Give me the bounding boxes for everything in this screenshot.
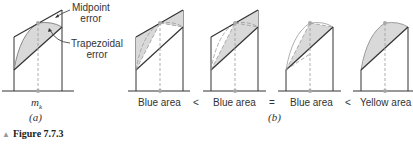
panel-b4-label: Yellow area [360, 97, 411, 108]
panel-b3 [278, 21, 341, 93]
trapezoidal-error-line1: Trapezoidal [71, 38, 123, 49]
triangle-icon: ▲ [2, 130, 10, 139]
figure-caption: ▲Figure 7.7.3 [2, 128, 64, 139]
panel-b2 [203, 10, 266, 93]
panel-b-caption: (b) [268, 111, 281, 123]
mk-subscript: k [39, 103, 42, 111]
trapezoidal-error-line2: error [71, 49, 123, 60]
comparator-1: < [193, 97, 199, 108]
midpoint-error-label: Midpoint error [72, 2, 110, 24]
panel-b1-label: Blue area [138, 97, 181, 108]
figure-diagram [0, 0, 413, 145]
midpoint-error-line2: error [72, 13, 110, 24]
midpoint-error-line1: Midpoint [72, 2, 110, 13]
mk-base: m [31, 96, 39, 108]
panel-b1 [128, 10, 190, 93]
trapezoidal-error-label: Trapezoidal error [71, 38, 123, 60]
panel-b4 [353, 21, 413, 93]
panel-b3-label: Blue area [290, 97, 333, 108]
comparator-2: = [269, 97, 275, 108]
panel-a-caption: (a) [29, 111, 42, 123]
panel-a [2, 10, 74, 93]
figure-caption-text: Figure 7.7.3 [13, 128, 64, 139]
comparator-3: < [345, 97, 351, 108]
mk-label: mk [31, 96, 42, 111]
panel-b2-label: Blue area [213, 97, 256, 108]
